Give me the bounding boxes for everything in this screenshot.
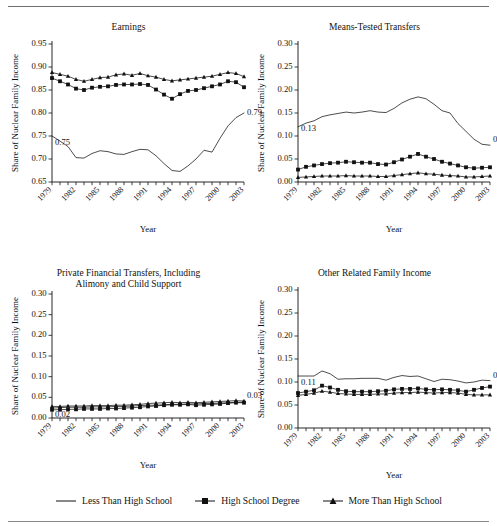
y-tick-label: 0.05	[31, 391, 46, 401]
data-point-marker	[464, 165, 468, 169]
data-point-marker	[210, 84, 214, 88]
series-line-less-than-high-school	[298, 97, 490, 145]
data-point-marker	[472, 166, 476, 170]
y-tick-label: 0.05	[277, 399, 292, 409]
data-point-marker	[186, 400, 190, 404]
x-tick-label: 1985	[83, 421, 101, 439]
x-axis-title: Year	[140, 460, 157, 470]
data-point-marker	[416, 171, 420, 175]
legend-label: High School Degree	[221, 495, 299, 506]
y-tick-label: 0.15	[277, 353, 292, 363]
x-tick-label: 1991	[377, 185, 395, 203]
x-tick-label: 1997	[179, 185, 197, 203]
data-point-marker	[448, 162, 452, 166]
data-point-marker	[90, 407, 94, 411]
panel-title-line2: Alimony and Child Support	[6, 279, 251, 290]
y-axis-title: Share of Nuclear Family Income	[256, 54, 266, 172]
y-tick-label: 0.30	[277, 284, 292, 294]
y-tick-label: 0.30	[277, 38, 292, 48]
chart-svg-private-financial-transfers: 0.000.050.100.150.200.250.30197919821985…	[6, 268, 251, 473]
y-tick-label: 0.10	[277, 130, 292, 140]
legend-item-more-than-high-school: More Than High School	[322, 495, 442, 506]
data-point-marker	[440, 160, 444, 164]
panel-title-means-tested-transfers: Means-Tested Transfers	[252, 22, 497, 33]
x-tick-label: 1985	[329, 185, 347, 203]
data-point-marker	[368, 161, 372, 165]
data-point-marker	[392, 160, 396, 164]
x-tick-label: 2000	[449, 431, 467, 449]
data-point-marker	[170, 97, 174, 101]
y-tick-label: 0.15	[277, 107, 292, 117]
top-divider-rule	[8, 6, 489, 7]
x-tick-label: 2000	[449, 185, 467, 203]
y-tick-label: 0.90	[31, 61, 46, 71]
x-tick-label: 1994	[155, 185, 173, 203]
panel-earnings: Earnings 0.650.700.750.800.850.900.95197…	[6, 22, 251, 252]
panel-other-related-family-income: Other Related Family Income 0.000.050.10…	[252, 268, 497, 498]
data-point-marker	[320, 162, 324, 166]
x-tick-label: 1985	[329, 431, 347, 449]
x-tick-label: 1979	[281, 431, 299, 449]
chart-svg-other-related-family-income: 0.000.050.100.150.200.250.30197919821985…	[252, 268, 497, 483]
panel-title-line1: Private Financial Transfers, Including	[57, 268, 201, 278]
data-point-marker	[50, 76, 54, 80]
data-point-marker	[82, 88, 86, 92]
y-tick-label: 0.00	[277, 176, 292, 186]
data-point-marker	[138, 82, 142, 86]
x-tick-label: 1994	[155, 421, 173, 439]
data-point-marker	[170, 400, 174, 404]
y-tick-label: 0.80	[31, 107, 46, 117]
data-point-marker	[480, 386, 484, 390]
value-annotation: 0.13	[301, 123, 316, 133]
legend-key-line-icon	[55, 496, 77, 506]
y-tick-label: 0.15	[31, 350, 46, 360]
x-tick-label: 1979	[35, 421, 53, 439]
data-point-marker	[352, 160, 356, 164]
data-point-marker	[242, 85, 246, 89]
data-point-marker	[138, 71, 142, 75]
y-axis-title: Share of Nuclear Family Income	[10, 54, 20, 172]
x-tick-label: 2003	[473, 431, 491, 449]
data-point-marker	[424, 155, 428, 159]
data-point-marker	[90, 86, 94, 90]
y-tick-label: 0.95	[31, 38, 46, 48]
legend-item-less-than-high-school: Less Than High School	[55, 495, 172, 506]
x-tick-label: 1982	[305, 431, 323, 449]
data-point-marker	[312, 164, 316, 168]
y-tick-label: 0.10	[31, 371, 46, 381]
chart-svg-earnings: 0.650.700.750.800.850.900.95197919821985…	[6, 22, 251, 237]
data-point-marker	[376, 162, 380, 166]
bottom-divider-rule	[8, 521, 489, 522]
data-point-marker	[178, 92, 182, 96]
data-point-marker	[488, 165, 492, 169]
data-point-marker	[328, 386, 332, 390]
data-point-marker	[488, 385, 492, 389]
y-tick-label: 0.20	[277, 84, 292, 94]
x-tick-label: 1988	[107, 421, 125, 439]
chart-legend: Less Than High School High School Degree…	[0, 495, 497, 506]
y-tick-label: 0.10	[277, 376, 292, 386]
data-point-marker	[130, 83, 134, 87]
data-point-marker	[106, 84, 110, 88]
data-point-marker	[114, 83, 118, 87]
x-tick-label: 2000	[203, 185, 221, 203]
y-tick-label: 0.70	[31, 153, 46, 163]
figure-root: Earnings 0.650.700.750.800.850.900.95197…	[0, 0, 497, 526]
data-point-marker	[226, 70, 230, 74]
x-tick-label: 2003	[227, 421, 245, 439]
x-tick-label: 1991	[131, 185, 149, 203]
data-point-marker	[320, 389, 324, 393]
data-point-marker	[400, 387, 404, 391]
data-point-marker	[416, 387, 420, 391]
x-tick-label: 2003	[227, 185, 245, 203]
data-point-marker	[58, 79, 62, 83]
data-point-marker	[202, 86, 206, 90]
panel-title-line1: Means-Tested Transfers	[329, 22, 420, 32]
top-partial-caption	[14, 0, 484, 5]
y-tick-label: 0.25	[277, 307, 292, 317]
value-annotation: 0.11	[301, 377, 316, 387]
legend-key-triangle-icon	[322, 496, 344, 506]
data-point-marker	[74, 87, 78, 91]
data-point-marker	[472, 388, 476, 392]
data-point-marker	[304, 165, 308, 169]
